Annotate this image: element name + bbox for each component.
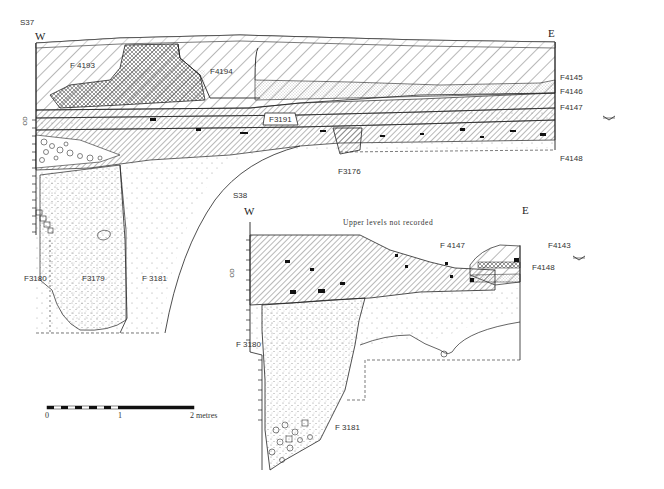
scale-bar-graphic (47, 406, 194, 409)
feature-f4148-label: F4148 (560, 155, 583, 163)
s37-datum-label: OD (22, 117, 28, 126)
feature-f4147-label: F4147 (560, 104, 583, 112)
feature-f3179-label: F3179 (82, 275, 105, 283)
s38-west-label: W (244, 205, 254, 217)
s38-feature-f4147-label: F 4147 (440, 242, 465, 250)
feature-f4145-label: F4145 (560, 74, 583, 82)
feature-f4193-label: F 4193 (70, 62, 95, 70)
feature-f3176-label: F3176 (338, 168, 361, 176)
feature-f4146-label: F4146 (560, 88, 583, 96)
feature-f3180-label: F3180 (24, 275, 47, 283)
s38-feature-f3181-label: F 3181 (335, 424, 360, 432)
s38-feature-f4148-label: F4148 (532, 264, 555, 272)
section-s38-title: S38 (233, 192, 247, 200)
feature-f3191-label: F3191 (268, 116, 293, 124)
upper-levels-note: Upper levels not recorded (343, 218, 433, 227)
feature-f4194-label: F4194 (210, 68, 233, 76)
s37-east-label: E (548, 27, 555, 39)
s38-feature-f3180-label: F 3180 (236, 341, 261, 349)
s37-west-label: W (35, 30, 45, 42)
s38-east-label: E (522, 204, 529, 216)
section-s38-drawing (246, 222, 585, 470)
scale-bar-end-label: 2 metres (190, 412, 217, 420)
s38-feature-f4143-label: F4143 (548, 242, 571, 250)
section-s37-title: S37 (20, 19, 34, 27)
scale-bar-mid-label: 1 (118, 412, 122, 420)
feature-f3181-label: F 3181 (142, 275, 167, 283)
s38-datum-label: OD (229, 269, 235, 278)
scale-bar-start-label: 0 (45, 412, 49, 420)
